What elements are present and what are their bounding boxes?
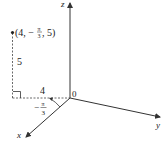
radius-label: 4 (40, 85, 45, 96)
right-angle-mark (13, 92, 21, 99)
point-label-pi: π (38, 26, 41, 32)
angle-label-sign: − (34, 102, 39, 112)
point-label-open: (4, − (15, 27, 34, 39)
x-axis (26, 98, 70, 137)
y-axis-label: y (155, 120, 160, 130)
angle-label-den: 3 (42, 109, 46, 117)
height-label: 5 (17, 56, 22, 67)
z-axis-label: z (60, 0, 65, 9)
point-label-close: , 5) (42, 27, 55, 39)
angle-label-pi: π (42, 101, 45, 107)
point-label-den: 3 (38, 33, 41, 39)
x-axis-label: x (16, 130, 21, 140)
cylindrical-coordinates-diagram: (4, − π 3 , 5) 5 4 0 − π 3 z y x (0, 0, 163, 144)
point-marker (11, 31, 14, 34)
y-axis (70, 98, 160, 117)
origin-label: 0 (72, 89, 77, 99)
